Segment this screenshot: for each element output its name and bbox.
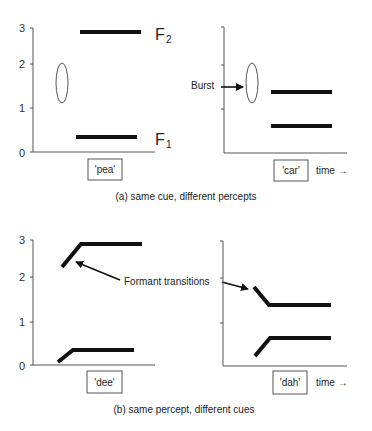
y-tick-0: 0 xyxy=(19,147,25,159)
transition-arrow-left-icon xyxy=(76,262,120,280)
formant-diagram: 3 2 1 0 F 2 F 1 'pea' Burst 'car' time →… xyxy=(0,0,372,431)
word-dee: 'dee' xyxy=(94,377,115,388)
transition-arrow-right-icon xyxy=(222,282,248,289)
burst-label: Burst xyxy=(191,80,215,91)
time-axis-label: time → xyxy=(316,377,348,388)
y-tick-3: 3 xyxy=(19,22,25,34)
burst-ellipse xyxy=(56,63,68,103)
f2-formant xyxy=(62,244,142,267)
f1-formant xyxy=(58,350,134,362)
y-tick-0: 0 xyxy=(19,360,25,372)
panel-b-left-plot: 3 2 1 0 'dee' xyxy=(19,234,155,393)
burst-ellipse xyxy=(246,63,258,103)
formant-transitions-label: Formant transitions xyxy=(124,276,210,287)
caption-a: (a) same cue, different percepts xyxy=(116,191,257,202)
f2-subscript: 2 xyxy=(166,34,172,45)
panel-a-right-plot: Burst 'car' time → xyxy=(191,27,348,181)
y-tick-1: 1 xyxy=(19,316,25,328)
y-tick-1: 1 xyxy=(19,102,25,114)
axes xyxy=(33,240,155,365)
f1-label: F xyxy=(155,131,165,148)
y-tick-3: 3 xyxy=(19,234,25,246)
y-tick-2: 2 xyxy=(19,58,25,70)
f1-subscript: 1 xyxy=(166,139,172,150)
f1-formant xyxy=(255,338,331,356)
panel-b-right-plot: 'dah' time → xyxy=(220,241,348,394)
time-axis-label: time → xyxy=(316,165,348,176)
word-pea: 'pea' xyxy=(95,164,116,175)
y-tick-2: 2 xyxy=(19,271,25,283)
axes xyxy=(33,28,155,152)
word-car: 'car' xyxy=(282,165,300,176)
panel-a-left-plot: 3 2 1 0 F 2 F 1 'pea' xyxy=(19,22,172,180)
caption-b: (b) same percept, different cues xyxy=(114,404,255,415)
word-dah: 'dah' xyxy=(280,377,301,388)
f2-label: F xyxy=(155,26,165,43)
f2-formant xyxy=(254,287,331,305)
